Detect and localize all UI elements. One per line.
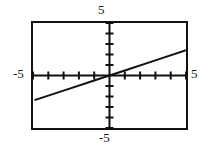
- plot-area: [33, 23, 186, 128]
- plot-canvas: [33, 23, 186, 128]
- x-min-label: -5: [13, 67, 24, 80]
- plot-frame: [31, 21, 188, 130]
- x-max-label: 5: [191, 67, 198, 80]
- y-min-label: -5: [99, 131, 110, 144]
- graph-widget: 5 -5 5 -5: [0, 0, 208, 149]
- y-max-label: 5: [98, 3, 105, 16]
